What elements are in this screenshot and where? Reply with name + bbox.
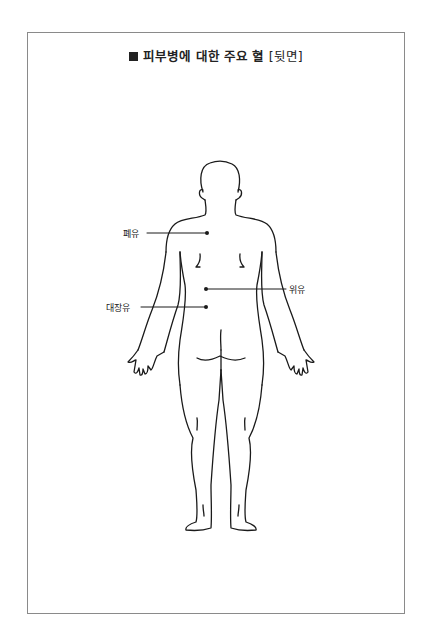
acupoint-label-wi-yu: 위유 [289,283,305,296]
body-back-figure [0,0,428,640]
acupoint-dot-wi-yu [204,287,208,291]
head-outline [201,161,240,192]
acupoint-dot-daejang-yu [204,305,208,309]
acupoint-label-pye-yu: 폐유 [123,227,139,240]
acupoint-dot-pye-yu [205,231,209,235]
acupoint-label-daejang-yu: 대장유 [106,301,130,314]
